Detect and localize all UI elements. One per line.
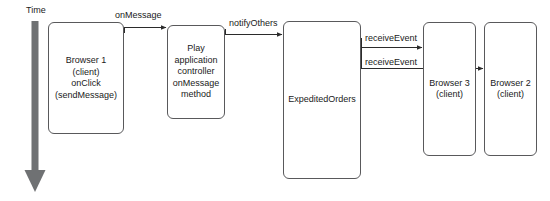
edge-label-receiveevent-2: receiveEvent	[365, 57, 417, 67]
node-browser2[interactable]: Browser 2 (client)	[484, 22, 537, 156]
node-browser3-label: Browser 3 (client)	[424, 78, 475, 101]
node-play-controller-label: Play application controller onMessage me…	[168, 43, 224, 101]
diagram-canvas: Time Browser 1 (client) onClick (sendMes…	[0, 0, 550, 201]
edge-label-onmessage: onMessage	[115, 10, 162, 20]
node-expedited-orders[interactable]: ExpeditedOrders	[283, 21, 361, 179]
edge-label-receiveevent-1: receiveEvent	[365, 33, 417, 43]
node-browser1[interactable]: Browser 1 (client) onClick (sendMessage)	[48, 22, 124, 134]
node-expedited-orders-label: ExpeditedOrders	[284, 94, 360, 106]
time-axis-label: Time	[26, 5, 46, 15]
time-axis-arrow	[25, 21, 46, 192]
edge-label-notifyothers: notifyOthers	[229, 18, 278, 28]
node-browser1-label: Browser 1 (client) onClick (sendMessage)	[49, 55, 123, 101]
node-browser3[interactable]: Browser 3 (client)	[423, 22, 476, 156]
node-browser2-label: Browser 2 (client)	[485, 78, 536, 101]
node-play-controller[interactable]: Play application controller onMessage me…	[167, 25, 225, 119]
